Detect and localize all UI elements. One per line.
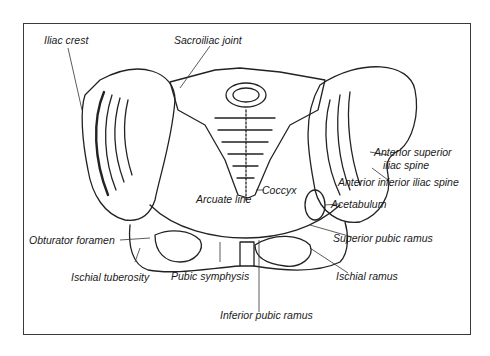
right-obturator-foramen <box>255 236 311 266</box>
label-obturator-foramen: Obturator foramen <box>29 234 115 246</box>
label-arcuate-line: Arcuate line <box>196 193 251 205</box>
label-anterior-inferior-iliac-spine: Anterior inferior iliac spine <box>338 176 459 188</box>
label-ischial-tuberosity: Ischial tuberosity <box>71 271 149 283</box>
label-sacroiliac-joint: Sacroiliac joint <box>174 34 242 46</box>
left-obturator-foramen <box>155 231 201 262</box>
pubic-symphysis-shape <box>240 242 254 266</box>
label-acetabulum: Acetabulum <box>331 198 386 210</box>
label-anterior-superior-iliac-spine-line2: iliac spine <box>383 159 429 171</box>
label-ischial-ramus: Ischial ramus <box>336 270 398 282</box>
sacral-promontory <box>226 83 266 107</box>
label-superior-pubic-ramus: Superior pubic ramus <box>333 232 433 244</box>
label-anterior-superior-iliac-spine: Anterior superior <box>374 146 452 158</box>
label-inferior-pubic-ramus: Inferior pubic ramus <box>220 309 313 321</box>
label-coccyx: Coccyx <box>262 184 296 196</box>
label-iliac-crest: Iliac crest <box>44 34 88 46</box>
label-pubic-symphysis: Pubic symphysis <box>171 270 249 282</box>
pelvic-brim <box>150 205 340 238</box>
